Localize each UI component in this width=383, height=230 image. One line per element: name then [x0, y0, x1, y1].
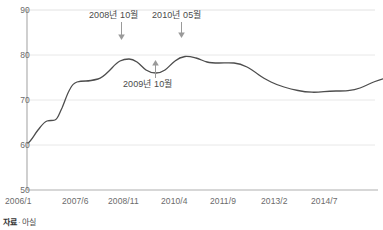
x-tick-label: 2008/11	[108, 197, 139, 206]
x-tick-label: 2013/2	[261, 197, 288, 206]
annotation-arrow-2008-10	[118, 22, 125, 40]
y-tick-label: 90	[4, 6, 30, 15]
y-tick-label: 60	[4, 141, 30, 150]
gridlines	[27, 10, 375, 145]
annotation-label-2008-10: 2008년 10월	[89, 11, 138, 20]
source-value: 아실	[22, 218, 36, 227]
x-tick-label: 2006/1	[5, 197, 32, 206]
x-tick-label: 2007/6	[62, 197, 89, 206]
source-note: 자료·아실	[3, 219, 36, 227]
x-tick-label: 2010/4	[161, 197, 188, 206]
x-tick-label: 2011/9	[210, 197, 236, 206]
annotation-arrow-2010-05	[178, 22, 185, 38]
y-tick-label: 50	[4, 186, 30, 195]
chart-container: 90 80 70 60 50 2006/1 2007/6 2008/11 201…	[0, 0, 383, 230]
annotation-arrow-2009-10	[152, 60, 159, 78]
y-tick-label: 80	[4, 51, 30, 60]
annotation-label-2010-05: 2010년 05월	[152, 11, 201, 20]
x-tick-label: 2014/7	[311, 197, 338, 206]
annotation-label-2009-10: 2009년 10월	[123, 80, 172, 89]
y-tick-label: 70	[4, 96, 30, 105]
source-key: 자료	[3, 218, 17, 227]
